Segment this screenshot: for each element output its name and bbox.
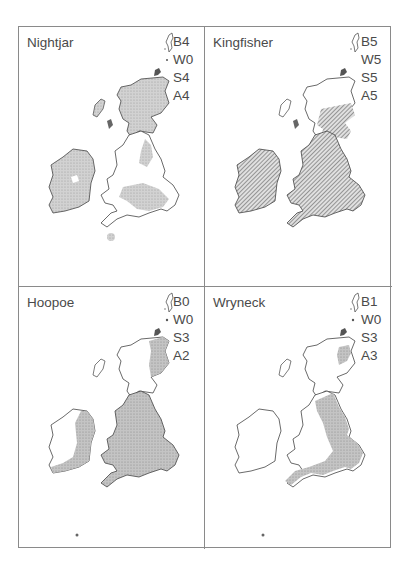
map-panel-hoopoe: Hoopoe B0 W0 S3 A2	[19, 287, 205, 549]
code-autumn: A3	[361, 347, 383, 365]
code-spring: S5	[361, 69, 383, 87]
code-winter: W5	[361, 51, 383, 69]
cropped-text-line	[30, 0, 330, 4]
code-autumn: A2	[173, 347, 195, 365]
code-breeding: B4	[173, 33, 195, 51]
status-codes: B4 W0 S4 A4	[173, 33, 195, 105]
species-name: Hoopoe	[27, 295, 74, 310]
code-breeding: B0	[173, 293, 195, 311]
map-panel-wryneck: Wryneck B1 W0 S3 A3	[205, 287, 392, 549]
code-winter: W0	[173, 311, 195, 329]
code-spring: S3	[173, 329, 195, 347]
species-name: Wryneck	[213, 295, 265, 310]
species-name: Nightjar	[27, 35, 74, 50]
status-codes: B0 W0 S3 A2	[173, 293, 195, 365]
code-winter: W0	[173, 51, 195, 69]
code-breeding: B5	[361, 33, 383, 51]
code-spring: S4	[173, 69, 195, 87]
code-winter: W0	[361, 311, 383, 329]
map-panel-nightjar: Nightjar B4 W0 S4 A4	[19, 27, 205, 287]
status-codes: B1 W0 S3 A3	[361, 293, 383, 365]
code-autumn: A4	[173, 87, 195, 105]
code-autumn: A5	[361, 87, 383, 105]
species-name: Kingfisher	[213, 35, 273, 50]
map-panel-kingfisher: Kingfisher B5 W5 S5 A5	[205, 27, 392, 287]
code-spring: S3	[361, 329, 383, 347]
map-grid: Nightjar B4 W0 S4 A4 Kingfisher	[18, 26, 391, 548]
code-breeding: B1	[361, 293, 383, 311]
status-codes: B5 W5 S5 A5	[361, 33, 383, 105]
